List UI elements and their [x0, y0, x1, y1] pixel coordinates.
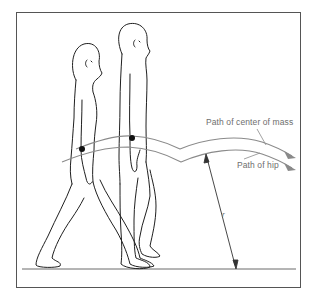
- figure-frame: [17, 13, 301, 288]
- rear-walking-figure: [36, 43, 154, 267]
- center-of-mass-path-label: Path of center of mass: [206, 117, 293, 127]
- walking-gait-diagram: Path of center of mass Path of hip r: [0, 0, 314, 289]
- radius-arrow: [204, 154, 238, 269]
- hip-path-arrowhead: [284, 163, 296, 171]
- hip-path-label: Path of hip: [237, 160, 279, 170]
- center-of-mass-dot-rear: [79, 146, 85, 152]
- com-label-leader: [257, 129, 266, 145]
- hip-label-leader: [244, 153, 260, 159]
- center-of-mass-dot-front: [129, 135, 135, 141]
- front-walking-figure: [119, 23, 160, 268]
- center-of-mass-arrowhead: [284, 151, 296, 159]
- radius-label: r: [222, 210, 225, 219]
